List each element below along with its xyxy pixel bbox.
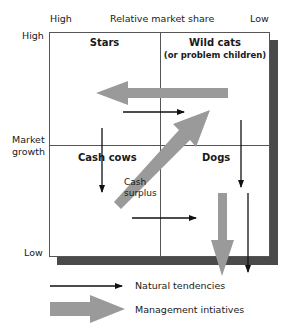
cash-surplus-label: Cash surplus bbox=[124, 177, 157, 199]
legend-thick-arrow bbox=[50, 295, 125, 323]
management-arrow-divest-dogs bbox=[211, 193, 234, 276]
legend-natural-label: Natural tendencies bbox=[135, 280, 225, 291]
cash-surplus-line2: surplus bbox=[124, 188, 157, 199]
management-arrow-wildcats-to-stars bbox=[96, 81, 228, 105]
cash-surplus-line1: Cash bbox=[124, 177, 157, 188]
legend-management-label: Management intiatives bbox=[135, 304, 244, 315]
